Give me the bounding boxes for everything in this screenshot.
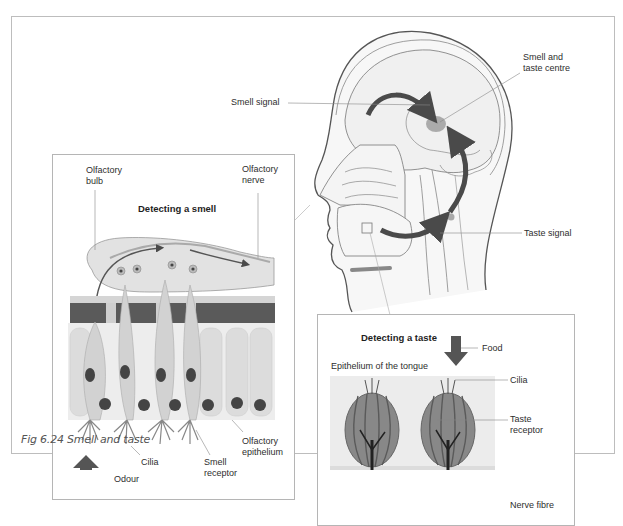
figure-caption: Fig 6.24 Smell and taste: [21, 433, 150, 446]
label-taste-receptor: Taste receptor: [510, 414, 543, 436]
label-nerve-fibre: Nerve fibre: [510, 500, 554, 511]
label-food: Food: [482, 343, 503, 354]
label-cilia-taste: Cilia: [510, 375, 528, 386]
label-epithelium-of-tongue: Epithelium of the tongue: [331, 361, 428, 372]
taste-panel-title: Detecting a taste: [361, 332, 437, 343]
label-odour: Odour: [114, 474, 139, 485]
food-arrow: [444, 336, 468, 366]
